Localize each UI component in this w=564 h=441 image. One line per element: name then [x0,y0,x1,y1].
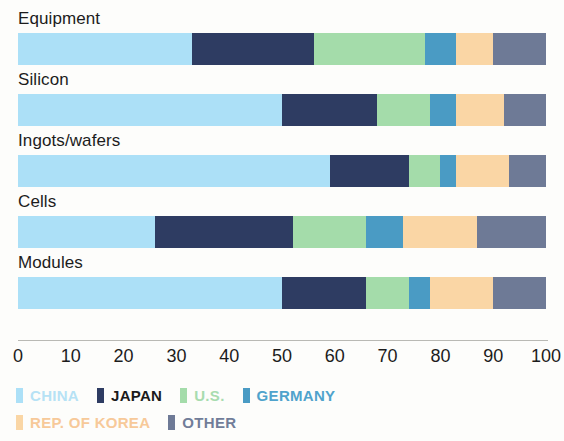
legend-item-germany: GERMANY [243,387,336,404]
x-tick-80: 80 [430,346,450,367]
stacked-bar-silicon [18,94,546,126]
bar-segment-china [18,277,282,309]
legend-label: OTHER [182,414,236,431]
bar-segment-other [504,94,546,126]
x-tick-70: 70 [378,346,398,367]
bar-segment-japan [155,216,292,248]
stacked-bar-equipment [18,33,546,65]
legend-item-japan: JAPAN [97,387,162,404]
bar-segment-korea [430,277,493,309]
stacked-bar-cells [18,216,546,248]
bar-segment-germany [366,216,403,248]
bar-segment-china [18,216,155,248]
x-tick-90: 90 [483,346,503,367]
x-tick-50: 50 [272,346,292,367]
bar-segment-other [493,277,546,309]
category-label-ingots-wafers: Ingots/wafers [18,130,546,152]
bar-segment-japan [282,277,366,309]
bar-segment-us [409,155,441,187]
bar-segment-us [314,33,425,65]
legend-swatch-icon [97,388,104,403]
legend-swatch-icon [16,415,23,430]
bar-segment-china [18,155,330,187]
bar-segment-germany [409,277,430,309]
x-axis-tick-labels: 0102030405060708090100 [0,346,564,372]
bar-segment-us [377,94,430,126]
x-axis-line [18,340,548,341]
chart-legend: CHINAJAPANU.S.GERMANYREP. OF KOREAOTHER [16,382,556,436]
plot-area: Equipment Silicon In [18,8,546,313]
category-label-cells: Cells [18,191,546,213]
legend-item-rep-of-korea: REP. OF KOREA [16,414,150,431]
category-group-cells: Cells [18,191,546,248]
bar-segment-china [18,33,192,65]
category-group-silicon: Silicon [18,69,546,126]
category-group-modules: Modules [18,252,546,309]
bar-segment-japan [192,33,313,65]
bar-segment-other [509,155,546,187]
bar-segment-germany [430,94,456,126]
bar-segment-korea [456,94,504,126]
stacked-bar-modules [18,277,546,309]
legend-item-other: OTHER [168,414,236,431]
bar-segment-korea [456,155,509,187]
legend-item-u-s: U.S. [180,387,224,404]
legend-row: REP. OF KOREAOTHER [16,409,556,436]
legend-swatch-icon [243,388,250,403]
category-label-silicon: Silicon [18,69,546,91]
legend-label: GERMANY [257,387,336,404]
legend-label: REP. OF KOREA [30,414,150,431]
bar-segment-other [477,216,546,248]
category-group-ingots-wafers: Ingots/wafers [18,130,546,187]
legend-label: JAPAN [111,387,162,404]
x-tick-40: 40 [219,346,239,367]
bar-segment-us [366,277,408,309]
bar-segment-japan [282,94,377,126]
legend-swatch-icon [180,388,187,403]
bar-segment-korea [403,216,477,248]
legend-item-china: CHINA [16,387,79,404]
legend-row: CHINAJAPANU.S.GERMANY [16,382,556,409]
bar-segment-other [493,33,546,65]
legend-label: CHINA [30,387,79,404]
legend-label: U.S. [194,387,224,404]
legend-swatch-icon [16,388,23,403]
category-label-equipment: Equipment [18,8,546,30]
stacked-bar-chart: Equipment Silicon In [0,0,564,441]
bar-segment-germany [440,155,456,187]
bar-segment-us [293,216,367,248]
x-tick-0: 0 [13,346,23,367]
bar-segment-korea [456,33,493,65]
category-group-equipment: Equipment [18,8,546,65]
category-label-modules: Modules [18,252,546,274]
bar-segment-japan [330,155,409,187]
bar-segment-china [18,94,282,126]
bar-segment-germany [425,33,457,65]
x-tick-20: 20 [114,346,134,367]
stacked-bar-ingots-wafers [18,155,546,187]
legend-swatch-icon [168,415,175,430]
x-tick-10: 10 [61,346,81,367]
x-tick-30: 30 [166,346,186,367]
x-tick-60: 60 [325,346,345,367]
x-tick-100: 100 [531,346,561,367]
